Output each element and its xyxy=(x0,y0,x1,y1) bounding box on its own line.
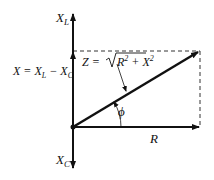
r-label: R xyxy=(149,131,158,146)
xl-label: XL xyxy=(55,10,69,27)
z-equation-radicand: R2 + X2 xyxy=(116,54,154,69)
phi-label: ϕ xyxy=(118,104,125,119)
z-equation-label: Z = xyxy=(82,55,100,69)
diagram-canvas: XL XC X = XL − XC Z = R2 + X2 ϕ R xyxy=(0,0,214,180)
x-equation-label: X = XL − XC xyxy=(12,64,74,80)
impedance-phasor-diagram: XL XC X = XL − XC Z = R2 + X2 ϕ R xyxy=(0,0,214,180)
origin-point xyxy=(71,125,76,130)
xc-label: XC xyxy=(55,152,71,169)
